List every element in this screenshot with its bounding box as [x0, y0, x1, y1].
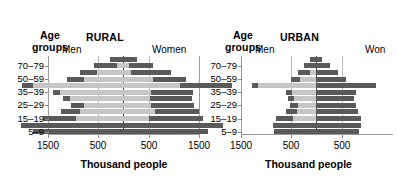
bar-segment-dark: [155, 109, 199, 114]
bar-segment-dark: [67, 77, 84, 82]
x-tick-label: 500: [129, 140, 169, 151]
bar-segment-dark: [61, 109, 80, 114]
y-tick-mark: [45, 79, 49, 80]
y-tick-mark: [238, 79, 242, 80]
bar-segment-dark: [316, 109, 358, 114]
bar-women-25–29: [316, 103, 356, 108]
table-row: [241, 116, 393, 121]
bar-segment-dark: [316, 129, 359, 134]
bar-segment-dark: [151, 103, 194, 108]
y-tick-label: 25–29: [4, 100, 44, 110]
bar-segment-light: [53, 90, 123, 95]
y-tick-mark: [238, 105, 242, 106]
y-tick-mark: [238, 119, 242, 120]
plot-area-rural: [48, 56, 200, 135]
bar-men-15–19: [276, 116, 316, 121]
y-tick-label: 70–79: [197, 61, 237, 71]
x-tick-label: 500: [78, 140, 118, 151]
bar-men-35–39: [286, 90, 316, 95]
bar-segment-dark: [110, 57, 123, 62]
table-row: [241, 83, 393, 88]
y-tick-mark: [45, 105, 49, 106]
bar-segment-dark: [316, 63, 330, 68]
bar-men-60–69: [298, 70, 316, 75]
y-tick-label: 50–59: [197, 74, 237, 84]
bar-segment-dark: [94, 63, 117, 68]
bar-women-60–69: [316, 70, 338, 75]
bar-women-20–24: [316, 109, 358, 114]
bar-segment-dark: [123, 129, 208, 134]
table-row: [241, 103, 393, 108]
bar-women-80+: [316, 57, 322, 62]
bar-men-80+: [110, 57, 123, 62]
table-row: [241, 129, 393, 134]
bar-women-40–49: [316, 83, 376, 88]
bar-men-40–49: [252, 83, 316, 88]
y-tick-mark: [45, 119, 49, 120]
bar-segment-dark: [131, 70, 171, 75]
table-row: [48, 90, 200, 95]
bar-women-30–34: [316, 96, 354, 101]
bar-segment-dark: [316, 96, 354, 101]
chart-panel-rural: Age groups RURAL Men Women 70–7950–5935–…: [0, 0, 205, 182]
age-groups-line1: Age: [40, 29, 60, 41]
bar-segment-dark: [316, 77, 346, 82]
plot-area-urban: [241, 56, 393, 135]
table-row: [48, 109, 200, 114]
table-row: [48, 116, 200, 121]
table-row: [241, 57, 393, 62]
bar-women-70–79: [123, 63, 153, 68]
women-label-rural: Women: [152, 44, 186, 55]
table-row: [48, 123, 200, 128]
y-tick-label: 35–39: [4, 87, 44, 97]
bar-women-15–19: [123, 116, 203, 121]
y-tick-label: 50–59: [4, 74, 44, 84]
bar-men-30–34: [63, 96, 123, 101]
table-row: [241, 96, 393, 101]
bar-men-25–29: [290, 103, 316, 108]
bar-men-10–14: [273, 123, 316, 128]
bar-men-15–19: [43, 116, 123, 121]
table-row: [241, 123, 393, 128]
bar-women-80+: [123, 57, 137, 62]
x-tick-mark: [48, 135, 49, 138]
bar-women-35–39: [316, 90, 356, 95]
bar-segment-dark: [304, 63, 316, 68]
women-label-urban: Won: [365, 44, 385, 55]
table-row: [48, 70, 200, 75]
bar-rows-urban: [241, 56, 393, 135]
bar-segment-dark: [252, 83, 258, 88]
bar-women-30–34: [123, 96, 192, 101]
bar-rows-rural: [48, 56, 200, 135]
bar-women-25–29: [123, 103, 194, 108]
bar-men-5–9: [274, 129, 316, 134]
bar-men-20–24: [286, 109, 316, 114]
bar-segment-dark: [316, 70, 338, 75]
table-row: [48, 63, 200, 68]
chart-panel-urban: Age groups URBAN Men Won 70–7950–5935–39…: [205, 0, 386, 182]
y-tick-mark: [45, 66, 49, 67]
y-tick-label: 70–79: [4, 61, 44, 71]
x-tick-label: 500: [271, 140, 311, 151]
bar-men-70–79: [304, 63, 316, 68]
bar-segment-dark: [286, 90, 292, 95]
x-axis-title-rural: Thousand people: [48, 158, 200, 170]
bar-women-50–59: [123, 77, 186, 82]
x-tick-mark: [342, 135, 343, 138]
bar-women-10–14: [316, 123, 361, 128]
table-row: [48, 57, 200, 62]
chart-title-urban: URBAN: [280, 31, 319, 43]
table-row: [241, 77, 393, 82]
y-tick-label: 5–9: [4, 127, 44, 137]
bar-segment-dark: [286, 109, 297, 114]
age-groups-line1-urban: Age: [233, 29, 253, 41]
bar-segment-dark: [316, 123, 361, 128]
bar-segment-dark: [290, 103, 298, 108]
y-tick-label: 35–39: [197, 87, 237, 97]
table-row: [48, 77, 200, 82]
table-row: [241, 70, 393, 75]
bar-segment-light: [63, 96, 123, 101]
bar-segment-dark: [316, 83, 376, 88]
y-tick-label: 15–19: [197, 114, 237, 124]
